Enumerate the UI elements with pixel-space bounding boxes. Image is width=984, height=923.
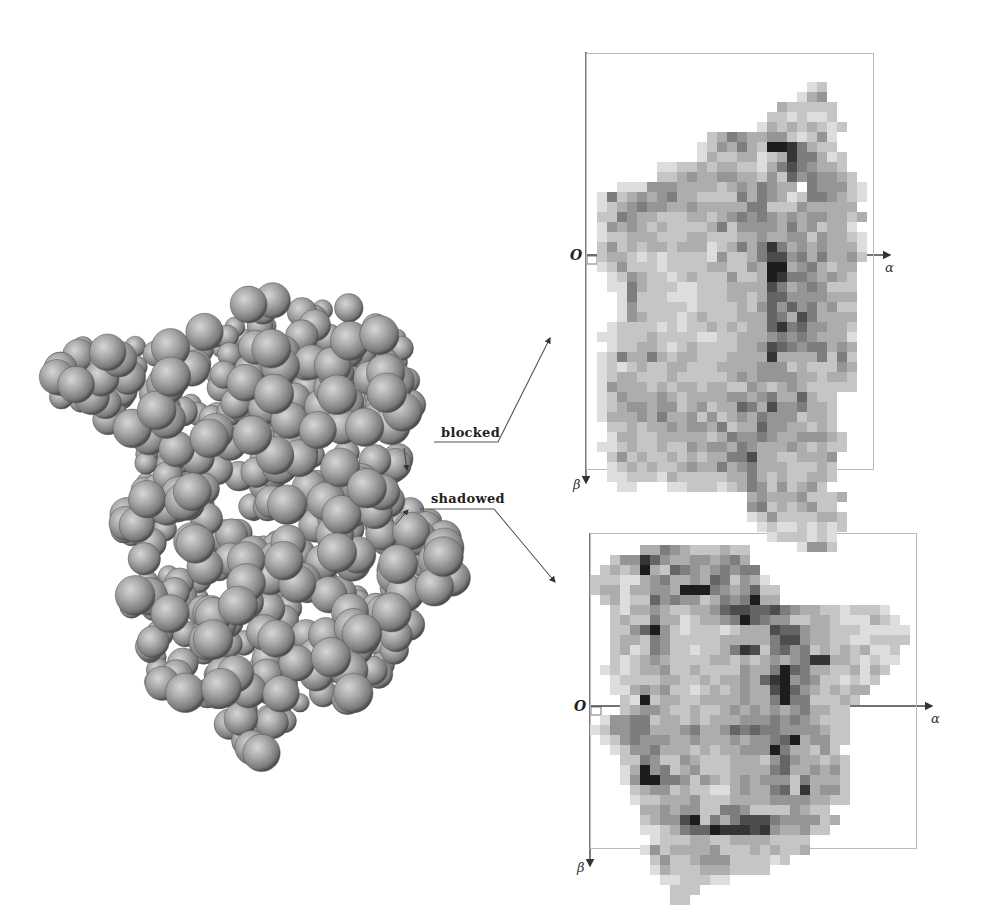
- density-cell: [860, 665, 870, 675]
- density-cell: [730, 545, 740, 555]
- density-cell: [787, 192, 797, 202]
- density-cell: [650, 715, 660, 725]
- density-cell: [827, 312, 837, 322]
- density-cell: [780, 765, 790, 775]
- density-cell: [760, 575, 770, 585]
- density-cell: [627, 342, 637, 352]
- density-cell: [870, 605, 880, 615]
- density-cell: [677, 402, 687, 412]
- density-cell: [617, 312, 627, 322]
- density-cell: [827, 192, 837, 202]
- density-cell: [830, 635, 840, 645]
- density-cell: [800, 715, 810, 725]
- density-cell: [797, 282, 807, 292]
- density-cell: [800, 805, 810, 815]
- density-cell: [717, 172, 727, 182]
- density-cell: [767, 302, 777, 312]
- density-cell: [757, 412, 767, 422]
- density-cell: [767, 382, 777, 392]
- density-cell: [660, 585, 670, 595]
- density-cell: [737, 452, 747, 462]
- density-cell: [680, 765, 690, 775]
- density-cell: [647, 342, 657, 352]
- density-cell: [810, 785, 820, 795]
- density-cell: [827, 462, 837, 472]
- density-cell: [610, 725, 620, 735]
- density-cell: [767, 452, 777, 462]
- density-cell: [660, 605, 670, 615]
- density-cell: [610, 635, 620, 645]
- density-cell: [637, 462, 647, 472]
- density-cell: [640, 805, 650, 815]
- density-cell: [700, 755, 710, 765]
- density-cell: [710, 725, 720, 735]
- density-cell: [607, 382, 617, 392]
- density-cell: [737, 252, 747, 262]
- density-cell: [657, 252, 667, 262]
- density-cell: [637, 442, 647, 452]
- density-cell: [777, 282, 787, 292]
- density-cell: [730, 855, 740, 865]
- density-cell: [750, 715, 760, 725]
- density-cell: [710, 865, 720, 875]
- density-cell: [647, 392, 657, 402]
- density-cell: [687, 392, 697, 402]
- density-cell: [680, 575, 690, 585]
- density-cell: [767, 492, 777, 502]
- density-cell: [637, 312, 647, 322]
- density-cell: [607, 462, 617, 472]
- density-cell: [667, 192, 677, 202]
- density-cell: [790, 835, 800, 845]
- density-cell: [857, 232, 867, 242]
- density-cell: [680, 735, 690, 745]
- density-cell: [680, 715, 690, 725]
- density-cell: [797, 392, 807, 402]
- density-cell: [837, 342, 847, 352]
- density-cell: [617, 342, 627, 352]
- density-cell: [817, 362, 827, 372]
- density-cell: [687, 202, 697, 212]
- density-cell: [757, 132, 767, 142]
- density-cell: [827, 162, 837, 172]
- density-cell: [750, 695, 760, 705]
- density-cell: [827, 382, 837, 392]
- density-cell: [660, 875, 670, 885]
- density-cell: [727, 262, 737, 272]
- density-cell: [767, 482, 777, 492]
- density-cell: [640, 755, 650, 765]
- density-cell: [670, 895, 680, 905]
- density-cell: [777, 422, 787, 432]
- density-cell: [827, 372, 837, 382]
- density-cell: [710, 575, 720, 585]
- density-cell: [827, 132, 837, 142]
- density-cell: [807, 302, 817, 312]
- density-cell: [647, 402, 657, 412]
- density-cell: [747, 372, 757, 382]
- density-cell: [750, 655, 760, 665]
- density-cell: [717, 282, 727, 292]
- density-cell: [820, 655, 830, 665]
- density-cell: [817, 312, 827, 322]
- density-cell: [700, 545, 710, 555]
- density-cell: [750, 615, 760, 625]
- density-cell: [760, 715, 770, 725]
- density-cell: [660, 685, 670, 695]
- density-cell: [627, 292, 637, 302]
- density-cell: [807, 372, 817, 382]
- density-cell: [737, 382, 747, 392]
- density-cell: [757, 192, 767, 202]
- density-cell: [680, 855, 690, 865]
- density-cell: [767, 322, 777, 332]
- density-cell: [610, 615, 620, 625]
- density-cell: [700, 645, 710, 655]
- density-cell: [860, 675, 870, 685]
- density-cell: [687, 222, 697, 232]
- density-cell: [637, 352, 647, 362]
- density-cell: [627, 352, 637, 362]
- density-cell: [690, 755, 700, 765]
- density-cell: [787, 452, 797, 462]
- density-cell: [717, 212, 727, 222]
- density-cell: [627, 182, 637, 192]
- density-cell: [747, 152, 757, 162]
- density-cell: [680, 665, 690, 675]
